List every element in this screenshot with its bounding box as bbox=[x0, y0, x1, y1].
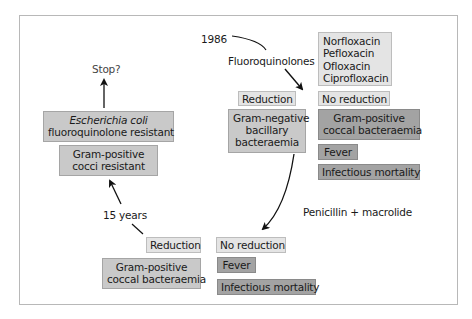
curve-1986-to-fluoroquinolones bbox=[232, 36, 266, 50]
fluoroquinolone-resistant-line: fluoroquinolone resistant bbox=[48, 126, 169, 138]
coccal-bacteraemia-line: coccal bacteraemia bbox=[323, 124, 415, 136]
fq-gram-positive-bacteraemia-box: Gram-positive coccal bacteraemia bbox=[318, 109, 420, 140]
ecoli-resistant-box: Escherichia coli fluoroquinolone resista… bbox=[43, 111, 174, 142]
bacillary-line: bacillary bbox=[233, 124, 301, 136]
arrow-15-years-line bbox=[132, 224, 143, 234]
gram-negative-bacteraemia-box: Gram-negative bacillary bacteraemia bbox=[228, 109, 306, 153]
drug-ofloxacin: Ofloxacin bbox=[323, 60, 387, 72]
fq-reduction-label: Reduction bbox=[238, 91, 296, 106]
ecoli-organism-line: Escherichia coli bbox=[48, 114, 169, 126]
cocci-resistant-line: cocci resistant bbox=[64, 160, 153, 172]
pm-gram-positive-bacteraemia-box: Gram-positive coccal bacteraemia bbox=[102, 258, 201, 289]
pm-no-reduction-label: No reduction bbox=[216, 237, 286, 253]
gram-positive-line: Gram-positive bbox=[323, 112, 415, 124]
pm-reduction-label: Reduction bbox=[146, 237, 201, 253]
drug-pefloxacin: Pefloxacin bbox=[323, 47, 387, 59]
stop-question-label: Stop? bbox=[92, 63, 120, 75]
fluoroquinolones-label: Fluoroquinolones bbox=[228, 55, 315, 67]
bacteraemia-line: bacteraemia bbox=[233, 136, 301, 148]
arrow-15-years bbox=[110, 181, 121, 204]
arrow-to-penicillin-outcomes bbox=[263, 154, 294, 229]
gram-positive-cocci-resistant-box: Gram-positive cocci resistant bbox=[59, 145, 158, 176]
year-1986-label: 1986 bbox=[201, 33, 227, 45]
pm-infectious-mortality-box: Infectious mortality bbox=[217, 279, 316, 295]
gram-positive-line: Gram-positive bbox=[64, 148, 153, 160]
pm-fever-box: Fever bbox=[217, 257, 256, 273]
gram-negative-line: Gram-negative bbox=[233, 112, 301, 124]
fifteen-years-label: 15 years bbox=[103, 209, 147, 221]
gram-positive-line: Gram-positive bbox=[107, 261, 196, 273]
penicillin-macrolide-label: Penicillin + macrolide bbox=[303, 206, 412, 218]
drug-ciprofloxacin: Ciprofloxacin bbox=[323, 72, 387, 84]
drug-list-box: Norfloxacin Pefloxacin Ofloxacin Ciprofl… bbox=[318, 32, 392, 86]
arrow-fluoroquinolones-to-outcomes bbox=[285, 69, 302, 89]
fq-infectious-mortality-box: Infectious mortality bbox=[318, 164, 420, 180]
coccal-bacteraemia-line: coccal bacteraemia bbox=[107, 273, 196, 285]
drug-norfloxacin: Norfloxacin bbox=[323, 35, 387, 47]
fq-fever-box: Fever bbox=[318, 144, 358, 160]
fq-no-reduction-label: No reduction bbox=[318, 91, 390, 106]
